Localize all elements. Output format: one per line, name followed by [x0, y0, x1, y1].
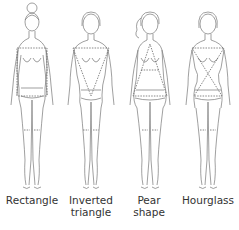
body-rectangle-illustration — [2, 0, 62, 192]
label-inverted-triangle: Inverted triangle — [61, 194, 121, 218]
label-hourglass: Hourglass — [178, 194, 238, 206]
label-inverted-triangle-line2: triangle — [61, 206, 121, 218]
label-rectangle-line1: Rectangle — [2, 194, 62, 206]
label-inverted-triangle-line1: Inverted — [61, 194, 121, 206]
figure-pear-shape — [119, 0, 179, 192]
label-hourglass-line1: Hourglass — [178, 194, 238, 206]
body-inverted-triangle-illustration — [61, 0, 121, 192]
label-pear-shape-line2: shape — [119, 206, 179, 218]
figure-rectangle — [2, 0, 62, 192]
label-pear-shape-line1: Pear — [119, 194, 179, 206]
body-pear-shape-illustration — [119, 0, 179, 192]
label-rectangle: Rectangle — [2, 194, 62, 206]
figure-hourglass — [178, 0, 238, 192]
body-hourglass-illustration — [178, 0, 238, 192]
figure-inverted-triangle — [61, 0, 121, 192]
label-pear-shape: Pear shape — [119, 194, 179, 218]
